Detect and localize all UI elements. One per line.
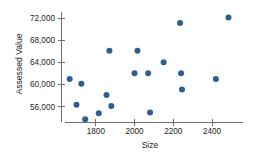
data-point (67, 76, 73, 82)
data-point (106, 48, 112, 54)
data-point (177, 20, 183, 26)
data-point (104, 92, 110, 98)
x-axis-tick-label: 2000 (125, 127, 144, 136)
y-axis-tick-label: 64,000 (30, 58, 55, 67)
data-point (225, 15, 231, 21)
y-axis-tick-label: 68,000 (30, 36, 55, 45)
data-point (96, 110, 102, 116)
data-point (78, 81, 84, 87)
data-point (132, 70, 138, 76)
data-point (73, 102, 79, 108)
data-point (179, 86, 185, 92)
y-axis: 56,00060,00064,00068,00072,000 (30, 12, 65, 122)
y-axis-tick-label: 56,000 (30, 103, 55, 112)
data-point (161, 59, 167, 65)
x-axis-title: Size (142, 140, 159, 150)
y-axis-title: Assessed Value (14, 33, 24, 94)
data-point (213, 76, 219, 82)
scatter-chart-figure: 56,00060,00064,00068,00072,000 180020002… (0, 0, 254, 159)
data-point (178, 70, 184, 76)
y-axis-tick-label: 60,000 (30, 80, 55, 89)
x-axis: 1800200022002400 (65, 119, 243, 137)
x-axis-tick-label: 2400 (203, 127, 222, 136)
x-axis-tick-label: 1800 (87, 127, 106, 136)
data-point (134, 48, 140, 54)
scatter-plot-canvas: 56,00060,00064,00068,00072,000 180020002… (0, 0, 254, 159)
data-point (145, 70, 151, 76)
data-point (108, 103, 114, 109)
y-axis-tick-label: 72,000 (30, 14, 55, 23)
data-point (147, 110, 153, 116)
data-point (82, 116, 88, 122)
data-point-series (67, 15, 232, 123)
x-axis-tick-label: 2200 (164, 127, 183, 136)
